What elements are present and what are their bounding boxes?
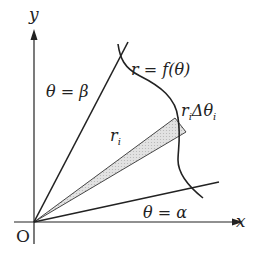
radius-label: ri bbox=[110, 128, 121, 147]
y-axis-label: y bbox=[29, 6, 39, 23]
ray-beta-label: θ = β bbox=[46, 84, 88, 100]
ray-alpha-label: θ = α bbox=[143, 205, 187, 221]
x-axis-label: x bbox=[236, 213, 246, 230]
arc-delta-sub: i bbox=[213, 111, 216, 122]
arc-delta: Δθ bbox=[192, 101, 213, 120]
curve-label: r = f(θ) bbox=[131, 62, 190, 78]
polar-diagram bbox=[0, 0, 259, 266]
origin-label: O bbox=[16, 228, 30, 245]
arc-length-label: riΔθi bbox=[181, 103, 216, 122]
radius-letter: r bbox=[110, 126, 118, 145]
arc-r: r bbox=[181, 101, 189, 120]
y-axis-arrow-icon bbox=[31, 29, 38, 40]
radius-subscript: i bbox=[118, 136, 121, 147]
